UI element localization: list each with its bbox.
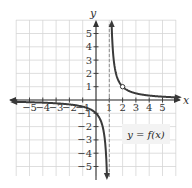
open-point — [120, 85, 124, 89]
x-axis-label: x — [183, 94, 190, 107]
svg-text:4: 4 — [86, 41, 92, 52]
svg-text:5: 5 — [159, 102, 165, 113]
svg-text:3: 3 — [133, 102, 139, 113]
svg-text:2: 2 — [86, 68, 92, 79]
y-axis-label: y — [89, 7, 97, 20]
legend: y = f(x) — [122, 124, 170, 144]
svg-text:5: 5 — [86, 28, 92, 39]
svg-text:4: 4 — [146, 102, 152, 113]
svg-text:−5: −5 — [77, 161, 92, 172]
svg-text:3: 3 — [86, 55, 92, 66]
svg-text:−3: −3 — [77, 134, 92, 145]
function-graph: −5−4−3−2−112345−5−4−3−2−112345 y = f(x) … — [0, 0, 192, 188]
legend-label: y = f(x) — [126, 129, 165, 140]
svg-text:−2: −2 — [77, 121, 92, 132]
svg-text:2: 2 — [119, 102, 125, 113]
axes — [9, 20, 181, 180]
svg-text:−4: −4 — [77, 148, 92, 159]
svg-text:1: 1 — [86, 81, 92, 92]
